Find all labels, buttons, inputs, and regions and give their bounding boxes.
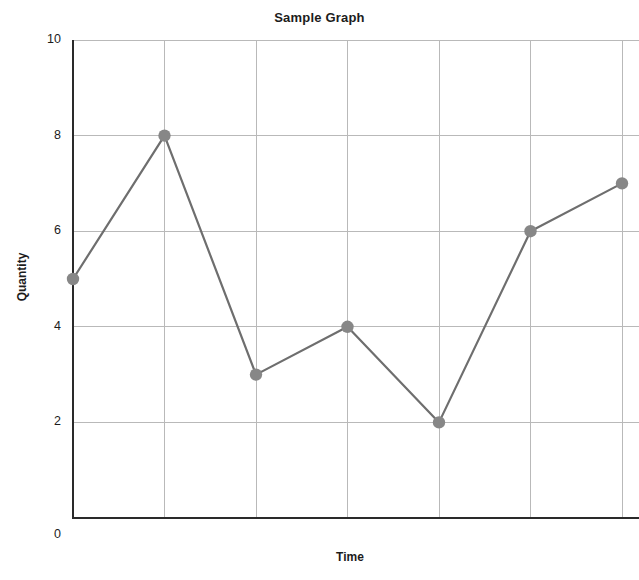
y-axis-tick-label: 10 <box>21 32 61 46</box>
data-point-marker <box>67 273 79 285</box>
plot-area <box>0 0 639 580</box>
y-axis-tick-label: 2 <box>21 414 61 428</box>
y-axis-tick-label: 0 <box>21 527 61 541</box>
horizontal-gridlines <box>73 40 639 422</box>
data-point-marker <box>524 225 536 237</box>
axis-lines <box>72 40 639 518</box>
data-point-marker <box>433 416 445 428</box>
vertical-gridlines <box>165 40 623 518</box>
data-point-marker <box>616 177 628 189</box>
y-axis-label: Quantity <box>15 231 29 323</box>
y-axis-tick-label: 8 <box>21 128 61 142</box>
chart-container: Sample Graph 0246810 Quantity Time <box>0 0 639 580</box>
data-point-marker <box>341 321 353 333</box>
data-point-marker <box>250 368 262 380</box>
data-point-marker <box>158 129 170 141</box>
x-axis-label: Time <box>0 550 639 564</box>
